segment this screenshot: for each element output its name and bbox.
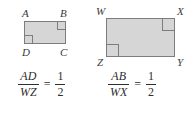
right-angle-mark-d [25,35,33,43]
right-angle-mark-z [107,44,119,56]
fraction-ab-over-wx: AB WX [108,70,129,98]
fraction-one-half: 1 2 [146,70,156,98]
equals-sign: = [44,77,51,92]
fraction-denominator: 2 [146,86,156,99]
fraction-numerator: 1 [55,70,65,83]
fraction-denominator: WZ [18,86,39,99]
fraction-numerator: AB [109,70,128,83]
vertex-label-a: A [22,8,29,19]
fraction-one-half: 1 2 [55,70,65,98]
equation-ab-wx: AB WX = 1 2 [108,70,156,98]
equation-ad-wz: AD WZ = 1 2 [18,70,65,98]
vertex-label-c: C [60,47,67,58]
vertex-label-w: W [96,6,105,17]
vertex-label-z: Z [97,57,103,68]
right-angle-mark-x [162,19,174,31]
fraction-ad-over-wz: AD WZ [18,70,39,98]
right-angle-mark-b [57,22,65,30]
fraction-numerator: AD [18,70,38,83]
fraction-denominator: 2 [55,86,65,99]
equals-sign: = [134,77,141,92]
geometry-figure: A B C D W X Y Z AD WZ = 1 2 AB WX = 1 [0,0,195,114]
vertex-label-x: X [177,6,184,17]
fraction-numerator: 1 [146,70,156,83]
vertex-label-y: Y [177,57,183,68]
vertex-label-b: B [60,8,67,19]
vertex-label-d: D [22,47,30,58]
fraction-denominator: WX [108,86,129,99]
